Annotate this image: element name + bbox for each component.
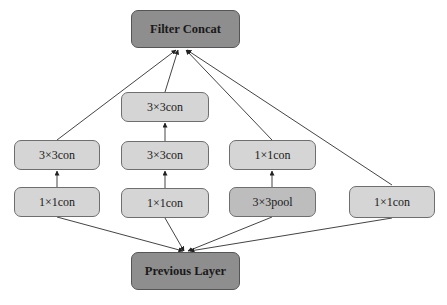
inception-module-diagram: Filter Concat 3×3con 3×3con 3×3con 1×1co… xyxy=(0,0,447,305)
branch3-3x3pool-node: 3×3pool xyxy=(229,187,316,217)
branch3-3x3pool-label: 3×3pool xyxy=(252,195,292,210)
branch3-1x1conv-node: 1×1con xyxy=(229,140,316,170)
edge-prev-b3 xyxy=(188,217,272,251)
branch1-1x1conv-node: 1×1con xyxy=(14,187,100,217)
branch1-3x3conv-node: 3×3con xyxy=(14,140,100,170)
branch2-1x1conv-label: 1×1con xyxy=(147,196,183,211)
branch1-3x3conv-label: 3×3con xyxy=(39,148,75,163)
previous-layer-label: Previous Layer xyxy=(145,264,226,279)
branch1-1x1conv-label: 1×1con xyxy=(39,195,75,210)
branch4-1x1conv-node: 1×1con xyxy=(349,186,435,218)
branch3-1x1conv-label: 1×1con xyxy=(254,148,290,163)
branch2-3x3conv-node: 3×3con xyxy=(121,141,209,170)
branch2-1x1conv-node: 1×1con xyxy=(121,188,209,218)
branch4-1x1conv-label: 1×1con xyxy=(374,195,410,210)
filter-concat-node: Filter Concat xyxy=(131,10,240,48)
previous-layer-node: Previous Layer xyxy=(131,252,240,290)
edge-prev-b2 xyxy=(165,218,184,251)
branch2-3x3conv-top-node: 3×3con xyxy=(121,92,209,122)
branch2-3x3conv-top-label: 3×3con xyxy=(147,100,183,115)
edge-prev-b1 xyxy=(57,217,183,251)
branch2-3x3conv-label: 3×3con xyxy=(147,148,183,163)
filter-concat-label: Filter Concat xyxy=(150,22,221,37)
edge-prev-b4 xyxy=(190,218,392,251)
